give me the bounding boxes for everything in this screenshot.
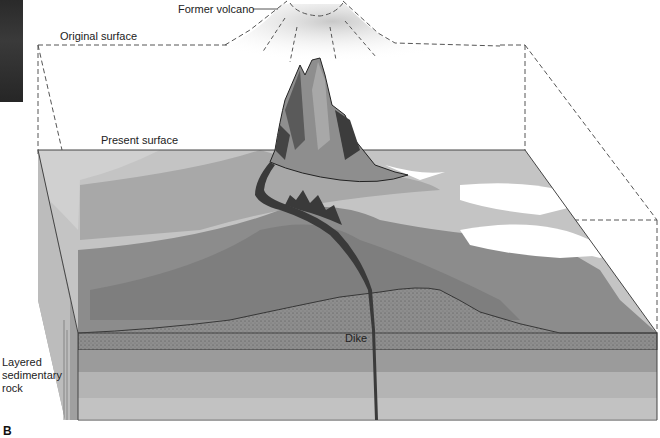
label-present-surface: Present surface [101,134,178,147]
label-layered-sedimentary-rock: Layered sedimentary rock [2,356,62,395]
label-original-surface: Original surface [60,30,137,43]
label-dike: Dike [345,332,367,345]
label-layered-line-3: rock [2,382,62,395]
present-surface-block [38,150,657,420]
label-former-volcano: Former volcano [178,3,254,16]
volcanic-neck-diagram [0,0,660,438]
panel-letter: B [3,424,12,438]
former-volcano [225,1,500,62]
label-layered-line-2: sedimentary [2,369,62,382]
label-layered-line-1: Layered [2,356,62,369]
